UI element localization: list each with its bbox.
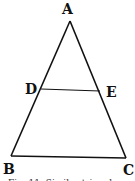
segment-de: [41, 89, 100, 91]
label-a: A: [61, 1, 74, 17]
label-d: D: [25, 81, 37, 97]
triangle-diagram: A D E B C Fig. 11. Similar triangles: [0, 0, 135, 181]
side-ac: [70, 21, 126, 158]
caption: Fig. 11. Similar triangles: [8, 178, 123, 181]
side-bc: [11, 156, 126, 158]
side-ab: [11, 21, 70, 156]
label-b: B: [3, 161, 15, 177]
label-c: C: [123, 162, 134, 178]
label-e: E: [106, 84, 117, 100]
